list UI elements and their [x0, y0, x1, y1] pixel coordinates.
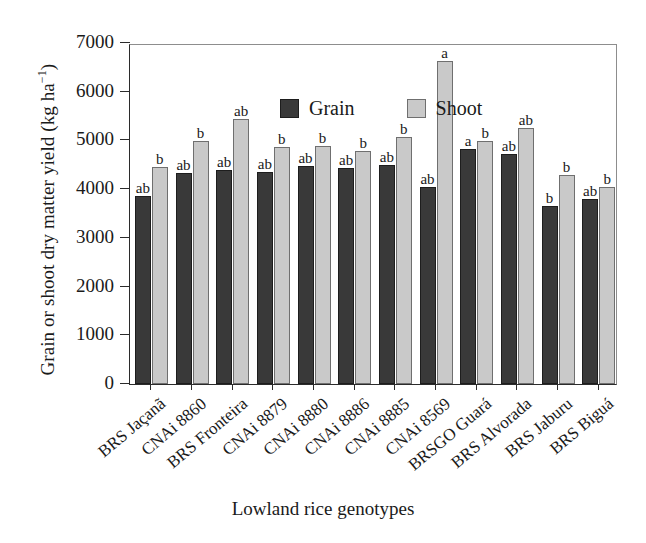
plot-area: 01000200030004000500060007000 abbabbabab…: [129, 44, 617, 385]
bar-group: abb: [257, 45, 290, 384]
bar-grain: ab: [176, 173, 192, 384]
bar-shoot: b: [193, 141, 209, 384]
bar-significance-letter: a: [465, 134, 472, 149]
bar-significance-letter: ab: [519, 113, 533, 128]
figure-container: Grain or shoot dry matter yield (kg ha−1…: [0, 0, 646, 543]
bar-significance-letter: ab: [258, 157, 272, 172]
chart-legend: Grain Shoot: [280, 97, 482, 120]
y-axis-tick: 0: [120, 383, 130, 384]
bar-significance-letter: ab: [502, 139, 516, 154]
bar-group: abab: [216, 45, 249, 384]
y-axis-tick: 7000: [120, 42, 130, 43]
legend-label-shoot: Shoot: [436, 97, 483, 120]
y-axis-tick: 1000: [120, 334, 130, 335]
bar-significance-letter: ab: [176, 158, 190, 173]
y-axis-tick: 5000: [120, 139, 130, 140]
y-axis-tick-label: 4000: [76, 177, 114, 199]
bar-group: abb: [338, 45, 371, 384]
y-axis-tick-label: 6000: [76, 80, 114, 102]
bar-shoot: ab: [518, 128, 534, 384]
x-axis-title: Lowland rice genotypes: [0, 498, 646, 520]
bar-significance-letter: b: [319, 131, 327, 146]
y-axis-tick-label: 1000: [76, 323, 114, 345]
bar-significance-letter: ab: [234, 104, 248, 119]
bar-significance-letter: ab: [136, 181, 150, 196]
bar-significance-letter: b: [278, 132, 286, 147]
bar-significance-letter: b: [603, 172, 611, 187]
bar-significance-letter: b: [400, 122, 408, 137]
bar-shoot: b: [477, 141, 493, 384]
y-axis-tick: 2000: [120, 286, 130, 287]
dark-square-swatch-icon: [280, 99, 299, 118]
y-axis-tick: 3000: [120, 237, 130, 238]
bar-significance-letter: ab: [217, 155, 231, 170]
y-axis-title: Grain or shoot dry matter yield (kg ha−1…: [35, 25, 58, 415]
bar-group: ab: [460, 45, 493, 384]
bar-significance-letter: ab: [380, 150, 394, 165]
bar-shoot: b: [152, 167, 168, 384]
x-axis-tick: [150, 384, 151, 390]
y-axis-tick: 6000: [120, 91, 130, 92]
bar-significance-letter: b: [563, 160, 571, 175]
bar-significance-letter: ab: [339, 153, 353, 168]
bar-shoot: ab: [233, 119, 249, 384]
bar-group: abb: [379, 45, 412, 384]
bar-significance-letter: b: [197, 126, 205, 141]
bar-significance-letter: b: [359, 136, 367, 151]
legend-label-grain: Grain: [309, 97, 355, 120]
light-square-swatch-icon: [407, 99, 426, 118]
bar-shoot: b: [274, 147, 290, 384]
y-axis-tick-label: 7000: [76, 31, 114, 53]
bar-significance-letter: ab: [583, 184, 597, 199]
legend-item-grain: Grain: [280, 97, 355, 120]
legend-item-shoot: Shoot: [407, 97, 483, 120]
bar-significance-letter: b: [156, 152, 164, 167]
bar-significance-letter: a: [441, 46, 448, 61]
bar-group: aba: [420, 45, 453, 384]
y-axis-tick-label: 2000: [76, 275, 114, 297]
bar-significance-letter: b: [481, 126, 489, 141]
bar-significance-letter: b: [546, 191, 554, 206]
bar-significance-letter: ab: [420, 172, 434, 187]
y-axis-tick-label: 3000: [76, 226, 114, 248]
bar-significance-letter: ab: [298, 151, 312, 166]
bar-shoot: b: [396, 137, 412, 384]
y-axis-tick: 4000: [120, 188, 130, 189]
bar-group: abab: [501, 45, 534, 384]
y-axis-tick-label: 5000: [76, 128, 114, 150]
bar-group: abb: [176, 45, 209, 384]
bar-grain: ab: [135, 196, 151, 384]
bar-group: abb: [135, 45, 168, 384]
bar-shoot: b: [355, 151, 371, 384]
y-axis-tick-label: 0: [105, 372, 115, 394]
